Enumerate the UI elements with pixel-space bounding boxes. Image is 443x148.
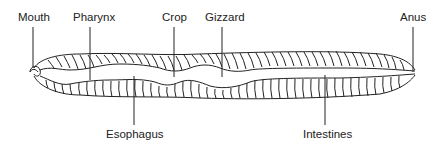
label-intestines: Intestines (303, 128, 352, 140)
label-crop: Crop (162, 11, 187, 23)
label-anus: Anus (400, 11, 426, 23)
leader-lines (33, 27, 413, 125)
label-gizzard: Gizzard (205, 11, 245, 23)
segment-hatching-bottom (46, 76, 400, 98)
label-pharynx: Pharynx (73, 11, 115, 23)
gut-top (40, 64, 415, 71)
label-esophagus: Esophagus (106, 128, 164, 140)
label-mouth: Mouth (18, 11, 50, 23)
body-outline-bottom (34, 75, 415, 99)
earthworm-digestive-diagram: Mouth Pharynx Crop Gizzard Anus Esophagu… (0, 0, 443, 148)
